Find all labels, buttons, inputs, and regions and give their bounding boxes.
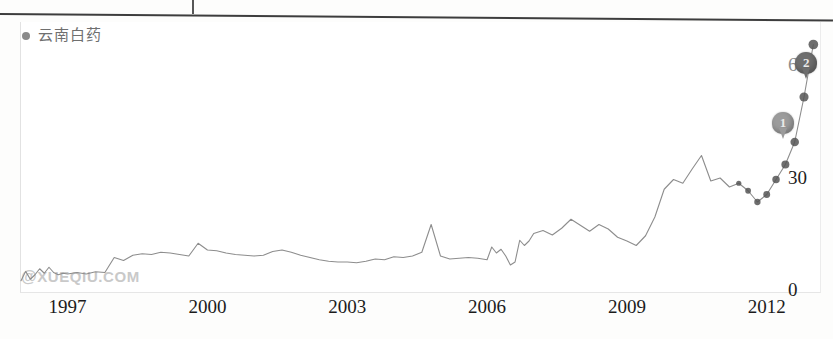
series-point <box>763 191 770 198</box>
series-line-0 <box>21 45 813 281</box>
legend-series-dot <box>22 32 30 40</box>
chart-legend[interactable]: 云南白药 <box>22 28 102 43</box>
legend-series-label: 云南白药 <box>38 28 102 43</box>
annotation-marker-2[interactable]: 2 <box>795 52 817 78</box>
annotation-marker-label: 1 <box>772 113 794 133</box>
series-point <box>809 40 819 50</box>
series-point <box>772 176 779 183</box>
annotation-marker-label: 2 <box>795 53 817 73</box>
balloon-pin-icon: 2 <box>795 52 817 78</box>
balloon-pin-icon: 1 <box>772 112 794 138</box>
x-axis-tick-1997: 1997 <box>49 296 87 318</box>
series-point <box>745 188 751 194</box>
x-axis-tick-2003: 2003 <box>328 296 366 318</box>
x-axis-tick-2012: 2012 <box>748 296 786 318</box>
series-point <box>781 161 789 169</box>
x-axis-tick-2006: 2006 <box>468 296 506 318</box>
x-axis-labels: 199720002003200620092012 <box>0 296 833 338</box>
screenshot-root: 云南白药 03060 199720002003200620092012 @XUE… <box>0 0 833 339</box>
stock-price-line-chart[interactable] <box>0 0 833 339</box>
series-point <box>790 138 799 147</box>
annotation-marker-1[interactable]: 1 <box>772 112 794 138</box>
series-point <box>754 199 760 205</box>
x-axis-tick-2000: 2000 <box>188 296 226 318</box>
x-axis-tick-2009: 2009 <box>608 296 646 318</box>
series-point <box>736 181 741 186</box>
series-point <box>799 92 808 101</box>
